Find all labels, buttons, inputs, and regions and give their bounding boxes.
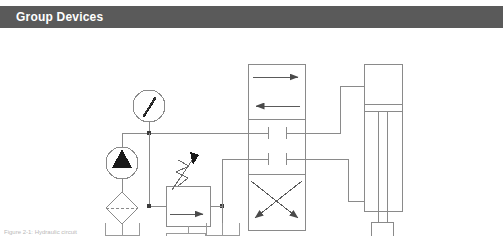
line-valve-to-cylinder-cap [305,86,364,133]
figure-caption: Figure 2-1: Hydraulic circuit [4,229,184,236]
header-bar: Group Devices [0,6,503,28]
diagram-canvas [0,28,503,236]
directional-control-valve-icon [248,64,305,230]
load-block-icon [371,222,393,236]
page-title: Group Devices [0,10,103,24]
screenshot-page: Group Devices [0,0,503,236]
line-valve-to-cylinder-rod [305,159,364,201]
relief-valve-icon [166,152,210,226]
filter-icon [106,192,138,224]
tank-return-line [222,159,248,223]
tank-valve [206,223,239,235]
hydraulic-circuit-diagram [0,28,503,236]
cylinder-icon [364,64,402,235]
junction-dot-relief-in [147,204,151,208]
pressure-gauge-icon [133,90,165,133]
pump-icon [106,147,138,179]
